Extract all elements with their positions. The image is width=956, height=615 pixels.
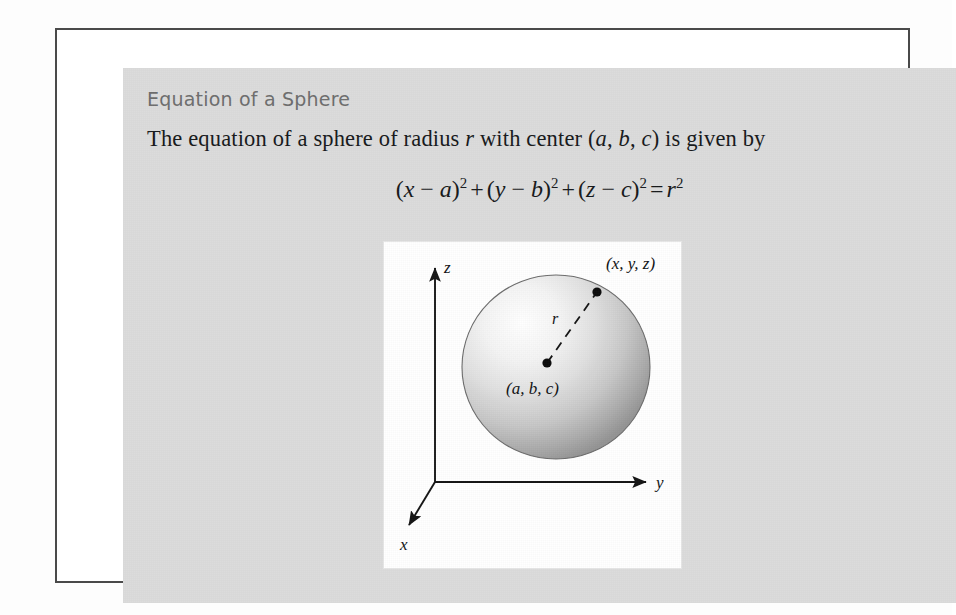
statement-part2: with center ( — [474, 126, 595, 151]
y-axis-label: y — [654, 473, 664, 492]
radius-label: r — [552, 310, 559, 327]
statement-part1: The equation of a sphere of radius — [147, 126, 465, 151]
statement-var-r: r — [465, 126, 474, 151]
page-title: Equation of a Sphere — [147, 88, 350, 110]
equation-rhs: r2 — [667, 176, 684, 202]
equation-term-3: (z − c)2 — [578, 176, 647, 202]
equation-term-1: (x − a)2 — [396, 176, 468, 202]
statement-var-a: a — [596, 126, 607, 151]
sphere-shape — [462, 275, 650, 459]
center-point-dot — [542, 358, 551, 367]
content-panel: Equation of a Sphere The equation of a s… — [123, 68, 956, 603]
sphere-diagram: z y x r (x, — [384, 242, 681, 568]
outer-frame: Equation of a Sphere The equation of a s… — [55, 28, 910, 583]
surface-point-label: (x, y, z) — [606, 254, 655, 273]
statement-var-c: c — [642, 126, 652, 151]
figure-container: z y x r (x, — [384, 242, 681, 568]
statement-var-b: b — [619, 126, 630, 151]
statement-sep1: , — [607, 126, 619, 151]
x-axis-label: x — [399, 535, 408, 554]
statement-sep2: , — [630, 126, 642, 151]
x-axis — [409, 482, 435, 525]
equation-term-2: (y − b)2 — [487, 176, 559, 202]
z-axis-label: z — [443, 258, 451, 277]
center-point-label: (a, b, c) — [506, 379, 559, 398]
statement-text: The equation of a sphere of radius r wit… — [147, 126, 766, 152]
equation-plus-1: + — [467, 176, 487, 202]
statement-part3: ) is given by — [652, 126, 766, 151]
display-equation: (x − a)2+(y − b)2+(z − c)2=r2 — [123, 176, 956, 203]
surface-point-dot — [592, 287, 601, 296]
equation-equals: = — [647, 176, 667, 202]
equation-plus-2: + — [558, 176, 578, 202]
